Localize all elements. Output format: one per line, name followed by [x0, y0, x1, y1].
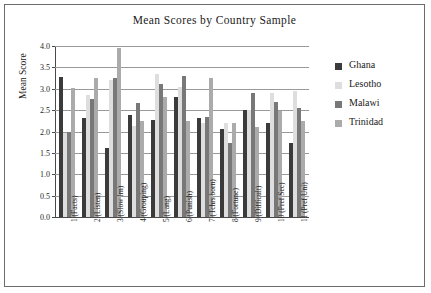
y-tick-label: 2.5: [40, 106, 50, 115]
x-tick-label: 2 (Listen): [93, 193, 102, 222]
x-tick-label: 9 (Difficult): [254, 186, 263, 222]
y-tick-mark: [52, 153, 55, 154]
legend-swatch-icon: [335, 120, 342, 127]
x-tick-label: 10 (Pref Sec): [277, 182, 286, 222]
legend-swatch-icon: [335, 82, 342, 89]
plot-area: 0.00.51.01.52.02.53.03.54.0 1 (Facts)2 (…: [55, 46, 309, 217]
y-axis-label: Mean Score: [18, 53, 28, 99]
bar-group: [151, 46, 167, 217]
x-tick-label: 6 (Punish): [185, 191, 194, 222]
y-tick-label: 2.0: [40, 127, 50, 136]
y-tick-label: 0.5: [40, 191, 50, 200]
y-tick-mark: [52, 174, 55, 175]
chart-frame: Mean Scores by Country Sample Mean Score…: [4, 4, 425, 287]
y-tick-mark: [52, 196, 55, 197]
x-tick-label: 3 (Slow lrn): [116, 186, 125, 222]
y-tick-mark: [52, 67, 55, 68]
x-tick-label: 5 (Lang): [162, 196, 171, 222]
legend-label: Lesotho: [349, 78, 381, 89]
y-tick-label: 1.0: [40, 170, 50, 179]
y-tick-mark: [52, 217, 55, 218]
bar-group: [82, 46, 98, 217]
y-tick-mark: [52, 89, 55, 90]
legend-label: Trinidad: [349, 116, 383, 127]
x-tick-label: 4 (Grouping): [139, 183, 148, 222]
y-tick-mark: [52, 46, 55, 47]
y-tick-label: 4.0: [40, 42, 50, 51]
y-tick-label: 3.0: [40, 84, 50, 93]
x-tick-label: 11 (Pref Uni): [300, 182, 309, 222]
x-tick-label: 7 (Tchrs born): [208, 179, 217, 222]
y-tick-mark: [52, 110, 55, 111]
chart-title: Mean Scores by Country Sample: [5, 14, 424, 26]
legend-label: Malawi: [349, 97, 380, 108]
y-tick-label: 3.5: [40, 63, 50, 72]
y-tick-label: 0.0: [40, 213, 50, 222]
y-tick-label: 1.5: [40, 148, 50, 157]
legend-label: Ghana: [349, 59, 375, 70]
bar-group: [59, 46, 75, 217]
legend-swatch-icon: [335, 63, 342, 70]
x-tick-label: 8 (Fortune): [231, 188, 240, 222]
legend-swatch-icon: [335, 101, 342, 108]
y-tick-mark: [52, 132, 55, 133]
x-tick-label: 1 (Facts): [70, 196, 79, 222]
